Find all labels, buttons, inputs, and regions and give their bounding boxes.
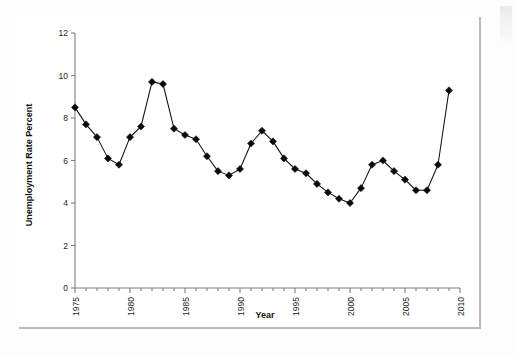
x-tick-label: 2000: [346, 297, 356, 316]
x-tick-label: 1975: [71, 297, 81, 316]
plot-wrapper: 024681012 197519801985199019952000200520…: [17, 15, 479, 327]
plot-background: [17, 15, 479, 327]
x-tick-label: 1980: [126, 297, 136, 316]
figure-container: 024681012 197519801985199019952000200520…: [0, 0, 516, 357]
y-tick-label: 12: [59, 28, 69, 38]
x-axis-title: Year: [255, 310, 275, 320]
x-tick-label: 2005: [401, 297, 411, 316]
x-tick-label: 1990: [236, 297, 246, 316]
x-tick-label: 1995: [291, 297, 301, 316]
y-tick-label: 8: [63, 113, 68, 123]
unemployment-line-chart: 024681012 197519801985199019952000200520…: [17, 15, 479, 327]
y-tick-label: 6: [63, 156, 68, 166]
y-tick-label: 0: [63, 283, 68, 293]
y-tick-label: 4: [63, 198, 68, 208]
y-tick-label: 2: [63, 241, 68, 251]
scan-edge-artifact: [500, 6, 512, 46]
y-axis-title: Unemployment Rate Percent: [24, 104, 34, 227]
x-tick-label: 1985: [181, 297, 191, 316]
x-tick-label: 2010: [456, 297, 466, 316]
y-tick-label: 10: [59, 71, 69, 81]
